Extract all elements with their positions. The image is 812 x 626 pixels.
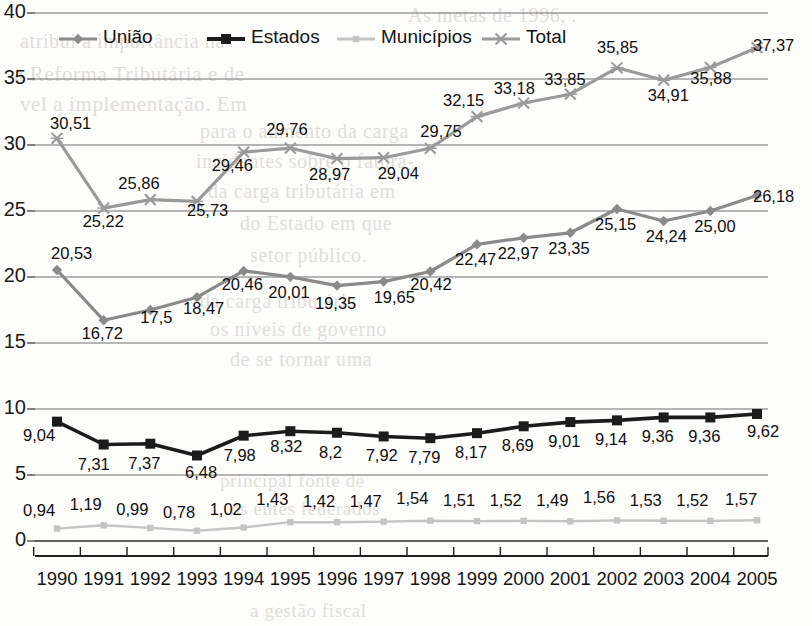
data-label: 35,85: [597, 38, 638, 57]
data-label: 20,01: [268, 283, 309, 302]
data-label: 17,5: [140, 308, 172, 327]
data-label: 20,53: [51, 244, 92, 263]
y-axis-tick-label: 40: [0, 0, 26, 23]
data-point-marker: [517, 98, 530, 109]
data-point-marker: [519, 421, 529, 431]
data-label: 6,48: [185, 463, 217, 482]
data-label: 20,42: [410, 275, 451, 294]
data-point-marker: [472, 428, 482, 438]
data-label: 0,78: [163, 503, 195, 522]
data-label: 8,17: [455, 443, 487, 462]
data-label: 34,91: [648, 86, 689, 105]
data-label: 9,62: [747, 422, 779, 441]
data-label: 16,72: [82, 324, 123, 343]
data-label: 25,22: [83, 212, 124, 231]
chart-plot-area: [0, 0, 812, 626]
data-point-marker: [564, 89, 577, 100]
data-label: 1,02: [210, 500, 242, 519]
data-label: 25,15: [595, 215, 636, 234]
data-point-marker: [378, 276, 388, 286]
data-label: 30,51: [50, 114, 91, 133]
data-point-marker: [54, 525, 60, 531]
data-label: 35,88: [690, 69, 731, 88]
data-point-marker: [705, 206, 715, 216]
data-label: 32,15: [443, 91, 484, 110]
data-point-marker: [287, 519, 293, 525]
data-point-marker: [660, 518, 666, 524]
series-line-3: [57, 48, 757, 208]
data-point-marker: [495, 33, 508, 44]
legend-marker-cross-icon: [480, 30, 522, 44]
data-label: 25,00: [694, 217, 735, 236]
data-label: 1,47: [350, 492, 382, 511]
data-label: 1,51: [443, 491, 475, 510]
legend-marker-square-icon: [205, 30, 247, 44]
data-label: 26,18: [753, 187, 794, 206]
data-label: 23,35: [548, 239, 589, 258]
data-point-marker: [380, 518, 386, 524]
data-label: 22,47: [455, 250, 496, 269]
legend-label: Municípios: [381, 27, 472, 46]
data-label: 25,86: [118, 174, 159, 193]
data-point-marker: [192, 450, 202, 460]
legend-item-total[interactable]: Total: [480, 27, 566, 46]
data-label: 1,43: [256, 490, 288, 509]
data-label: 33,18: [494, 79, 535, 98]
data-label: 8,32: [270, 437, 302, 456]
data-label: 18,47: [183, 299, 224, 318]
data-label: 33,85: [544, 70, 585, 89]
data-point-marker: [567, 518, 573, 524]
data-label: 29,46: [212, 156, 253, 175]
y-axis-tick-label: 15: [0, 330, 26, 353]
data-point-marker: [705, 412, 715, 422]
data-label: 9,36: [642, 427, 674, 446]
data-label: 1,56: [583, 488, 615, 507]
data-point-marker: [240, 524, 246, 530]
legend-label: Total: [526, 27, 566, 46]
data-label: 22,97: [498, 244, 539, 263]
data-label: 9,01: [548, 432, 580, 451]
legend-item-unio[interactable]: União: [57, 27, 153, 46]
data-point-marker: [145, 439, 155, 449]
data-label: 20,46: [222, 275, 263, 294]
legend-item-estados[interactable]: Estados: [205, 27, 320, 46]
y-axis-tick-label: 35: [0, 66, 26, 89]
data-point-marker: [612, 204, 622, 214]
data-point-marker: [565, 417, 575, 427]
data-point-marker: [427, 517, 433, 523]
data-label: 29,75: [420, 122, 461, 141]
y-axis-tick-label: 0: [0, 528, 26, 551]
y-axis-tick-label: 30: [0, 132, 26, 155]
data-label: 29,04: [378, 164, 419, 183]
data-point-marker: [707, 518, 713, 524]
data-label: 29,76: [266, 120, 307, 139]
data-point-marker: [51, 133, 64, 144]
legend-label: Estados: [251, 27, 320, 46]
data-point-marker: [379, 431, 389, 441]
data-label: 19,65: [374, 288, 415, 307]
data-label: 1,19: [70, 495, 102, 514]
legend-marker-diamond-icon: [57, 30, 99, 44]
data-label: 1,52: [490, 491, 522, 510]
data-point-marker: [221, 34, 231, 44]
data-label: 9,14: [595, 430, 627, 449]
data-point-marker: [474, 518, 480, 524]
x-axis-tick-label: 2005: [727, 568, 787, 590]
y-axis-tick-label: 5: [0, 462, 26, 485]
data-point-marker: [353, 35, 359, 41]
legend-item-municpios[interactable]: Municípios: [335, 27, 472, 46]
data-label: 8,2: [319, 443, 342, 462]
data-label: 0,99: [116, 500, 148, 519]
data-point-marker: [658, 216, 668, 226]
data-point-marker: [147, 525, 153, 531]
data-point-marker: [425, 433, 435, 443]
data-point-marker: [331, 153, 344, 164]
data-label: 1,52: [676, 491, 708, 510]
data-label: 25,73: [187, 201, 228, 220]
data-point-marker: [73, 33, 83, 43]
data-point-marker: [99, 440, 109, 450]
data-label: 28,97: [309, 165, 350, 184]
data-label: 1,42: [303, 492, 335, 511]
data-point-marker: [285, 272, 295, 282]
data-label: 1,57: [725, 490, 757, 509]
